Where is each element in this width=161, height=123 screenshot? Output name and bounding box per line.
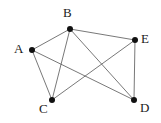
- edge-a-d: [32, 50, 134, 100]
- vertex-label-c: C: [39, 102, 48, 115]
- edge-e-d: [134, 40, 135, 100]
- graph-svg: [0, 0, 161, 123]
- edge-c-e: [52, 40, 135, 100]
- vertex-b: [67, 26, 73, 32]
- graph-diagram-canvas: ABCDE: [0, 0, 161, 123]
- vertex-label-d: D: [140, 101, 149, 114]
- edge-b-d: [70, 29, 134, 100]
- vertex-label-b: B: [63, 6, 72, 19]
- vertex-c: [49, 97, 55, 103]
- vertex-label-a: A: [14, 42, 23, 55]
- edge-group: [32, 29, 135, 100]
- edge-b-e: [70, 29, 135, 40]
- edge-a-c: [32, 50, 52, 100]
- vertex-label-e: E: [141, 32, 149, 45]
- vertex-e: [132, 37, 138, 43]
- vertex-d: [131, 97, 137, 103]
- edge-a-b: [32, 29, 70, 50]
- vertex-a: [29, 47, 35, 53]
